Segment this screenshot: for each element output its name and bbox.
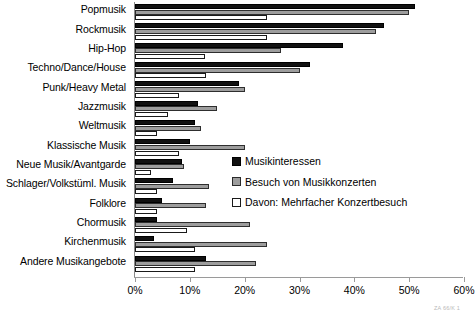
bar-2 bbox=[135, 15, 267, 20]
bar-group bbox=[135, 81, 464, 98]
x-axis-tick-label: 30% bbox=[289, 284, 310, 296]
bar-0 bbox=[135, 120, 195, 125]
category-label: Folklore bbox=[89, 198, 126, 209]
bar-1 bbox=[135, 164, 184, 169]
legend-label: Musikinteressen bbox=[245, 155, 321, 167]
bar-1 bbox=[135, 10, 409, 15]
bar-0 bbox=[135, 81, 239, 86]
bar-0 bbox=[135, 178, 173, 183]
bar-group bbox=[135, 217, 464, 234]
legend-swatch-gray-square-icon bbox=[232, 177, 241, 186]
bar-1 bbox=[135, 145, 245, 150]
category-label: Neue Musik/Avantgarde bbox=[16, 159, 126, 170]
bar-2 bbox=[135, 170, 151, 175]
legend-label: Besuch von Musikkonzerten bbox=[245, 176, 376, 188]
category-label: Kirchenmusik bbox=[64, 236, 126, 247]
bar-2 bbox=[135, 189, 157, 194]
bar-0 bbox=[135, 43, 343, 48]
bar-2 bbox=[135, 73, 206, 78]
bar-0 bbox=[135, 139, 190, 144]
bar-0 bbox=[135, 236, 154, 241]
legend-swatch-black-square-icon bbox=[232, 157, 241, 166]
legend-item-mehrfacher-konzertbesuch: Davon: Mehrfacher Konzertbesuch bbox=[232, 196, 407, 208]
bar-1 bbox=[135, 48, 281, 53]
bar-group bbox=[135, 256, 464, 273]
bar-2 bbox=[135, 112, 168, 117]
category-label: Rockmusik bbox=[76, 24, 126, 35]
x-axis-tick bbox=[190, 277, 191, 282]
bar-2 bbox=[135, 228, 187, 233]
category-label: Schlager/Volkstüml. Musik bbox=[6, 178, 126, 189]
bar-group bbox=[135, 23, 464, 40]
bar-group bbox=[135, 43, 464, 60]
category-label: Techno/Dance/House bbox=[27, 62, 126, 73]
bar-0 bbox=[135, 217, 157, 222]
x-axis-tick bbox=[409, 277, 410, 282]
x-axis-tick-label: 40% bbox=[344, 284, 365, 296]
bar-1 bbox=[135, 184, 209, 189]
legend-label: Davon: Mehrfacher Konzertbesuch bbox=[245, 196, 407, 208]
x-axis-tick bbox=[135, 277, 136, 282]
bar-0 bbox=[135, 4, 415, 9]
x-axis-tick-label: 60% bbox=[453, 284, 474, 296]
x-axis-tick-label: 10% bbox=[179, 284, 200, 296]
bar-1 bbox=[135, 106, 217, 111]
bar-0 bbox=[135, 23, 384, 28]
bar-2 bbox=[135, 93, 179, 98]
bar-group bbox=[135, 62, 464, 79]
x-axis-tick bbox=[464, 277, 465, 282]
bar-group bbox=[135, 4, 464, 21]
bar-1 bbox=[135, 261, 256, 266]
bar-2 bbox=[135, 131, 157, 136]
bar-1 bbox=[135, 68, 300, 73]
category-label: Andere Musikangebote bbox=[20, 256, 126, 267]
bar-2 bbox=[135, 54, 205, 59]
category-label: Weltmusik bbox=[79, 120, 126, 131]
bar-0 bbox=[135, 62, 310, 67]
category-label: Chormusik bbox=[77, 217, 126, 228]
plot-area bbox=[135, 2, 464, 273]
x-axis-tick-label: 50% bbox=[399, 284, 420, 296]
bar-0 bbox=[135, 198, 162, 203]
source-note: ZA 66/K 1 bbox=[434, 305, 460, 311]
category-axis-labels: PopmusikRockmusikHip-HopTechno/Dance/Hou… bbox=[0, 0, 131, 273]
x-axis-tick-label: 0% bbox=[127, 284, 142, 296]
legend-swatch-white-square-icon bbox=[232, 198, 241, 207]
category-label: Jazzmusik bbox=[78, 101, 126, 112]
bar-group bbox=[135, 236, 464, 253]
x-axis-tick bbox=[245, 277, 246, 282]
bar-1 bbox=[135, 203, 206, 208]
bar-1 bbox=[135, 242, 267, 247]
chart-legend: Musikinteressen Besuch von Musikkonzerte… bbox=[232, 155, 407, 217]
bar-2 bbox=[135, 267, 195, 272]
bar-1 bbox=[135, 222, 250, 227]
x-axis-tick-label: 20% bbox=[234, 284, 255, 296]
legend-item-musikinteressen: Musikinteressen bbox=[232, 155, 407, 167]
bar-group bbox=[135, 120, 464, 137]
bar-1 bbox=[135, 126, 201, 131]
bar-2 bbox=[135, 209, 157, 214]
bar-2 bbox=[135, 35, 267, 40]
bar-2 bbox=[135, 151, 179, 156]
x-axis-tick bbox=[354, 277, 355, 282]
bar-0 bbox=[135, 256, 206, 261]
category-label: Popmusik bbox=[81, 4, 126, 15]
bar-2 bbox=[135, 247, 195, 252]
bar-1 bbox=[135, 87, 245, 92]
category-label: Punk/Heavy Metal bbox=[42, 82, 126, 93]
bar-group bbox=[135, 139, 464, 156]
x-axis-line bbox=[134, 277, 463, 278]
bar-0 bbox=[135, 159, 182, 164]
x-axis-tick bbox=[300, 277, 301, 282]
legend-item-besuch-von-musikkonzerten: Besuch von Musikkonzerten bbox=[232, 176, 407, 188]
bar-1 bbox=[135, 29, 376, 34]
bar-group bbox=[135, 101, 464, 118]
category-label: Hip-Hop bbox=[88, 43, 126, 54]
category-label: Klassische Musik bbox=[47, 140, 126, 151]
bar-0 bbox=[135, 101, 198, 106]
